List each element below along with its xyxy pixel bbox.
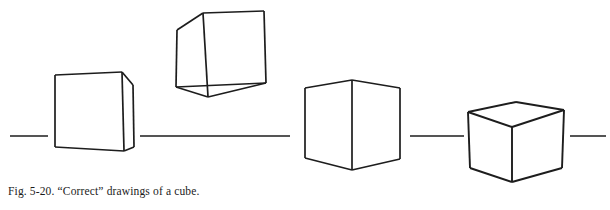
cube-3-edge-1 bbox=[305, 80, 352, 88]
cube-3-edge-7 bbox=[352, 159, 400, 170]
cube-2-edge-1 bbox=[203, 11, 264, 13]
cube-4-edge-9 bbox=[512, 168, 562, 182]
cube-drawing-below-horizon bbox=[468, 102, 564, 182]
cube-3-edge-5 bbox=[352, 80, 400, 88]
cube-4-edge-2 bbox=[516, 102, 564, 110]
cube-2-edge-6 bbox=[176, 30, 177, 87]
cube-4-edge-1 bbox=[468, 102, 516, 112]
cube-2-edge-7 bbox=[176, 87, 208, 97]
cube-4-edge-8 bbox=[562, 110, 564, 168]
cube-2-edge-5 bbox=[177, 13, 203, 30]
cube-4-edge-5 bbox=[468, 112, 470, 168]
figure-caption: Fig. 5-20. “Correct” drawings of a cube. bbox=[8, 184, 602, 199]
cube-drawings-illustration bbox=[0, 0, 610, 186]
cube-4-edge-4 bbox=[468, 112, 512, 127]
cube-4-edge-3 bbox=[512, 110, 564, 127]
figure-container: Fig. 5-20. “Correct” drawings of a cube. bbox=[0, 0, 610, 210]
cube-drawing-near-frontal bbox=[55, 72, 134, 151]
cube-3-edge-3 bbox=[305, 158, 352, 170]
cube-drawing-two-point-perspective bbox=[305, 80, 400, 170]
cube-1-front-face bbox=[55, 72, 124, 151]
cube-1-edge-6 bbox=[133, 85, 134, 147]
cube-4-edge-6 bbox=[470, 168, 512, 182]
cube-2-edge-4 bbox=[203, 13, 208, 97]
cube-drawings-group bbox=[55, 11, 564, 182]
cube-2-edge-2 bbox=[264, 11, 266, 83]
cube-drawing-tilted-above bbox=[176, 11, 266, 97]
